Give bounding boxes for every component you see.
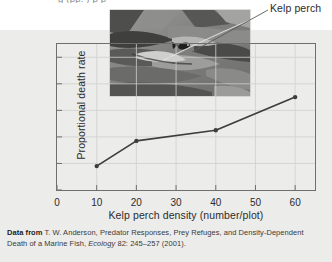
chart: Proportional death rate 00.20.40.60.81.0… [0, 0, 332, 262]
plot-frame: Proportional death rate 00.20.40.60.81.0… [56, 43, 316, 191]
x-tick-label: 20 [123, 197, 149, 208]
x-tick-label: 50 [242, 197, 268, 208]
plot-area [57, 44, 315, 190]
data-points [94, 95, 297, 168]
x-tick-label: 30 [163, 197, 189, 208]
data-point [214, 128, 218, 132]
gridlines [57, 44, 315, 190]
data-point [293, 95, 297, 99]
caption-line2a: Death of a Marine Fish, [7, 239, 88, 248]
caption-journal: Ecology [88, 239, 115, 248]
figure-page: g (pp. ) p p [0, 0, 332, 262]
caption-lead: Data from [7, 228, 42, 237]
caption-line2b: 82: 245–257 (2001). [115, 239, 186, 248]
data-point [134, 139, 138, 143]
x-tick-label: 10 [84, 197, 110, 208]
x-tick-label: 0 [44, 197, 70, 208]
data-line [97, 97, 295, 166]
data-point [94, 164, 98, 168]
x-axis-title: Kelp perch density (number/plot) [56, 209, 316, 221]
x-tick-label: 60 [282, 197, 308, 208]
caption-line1: T. W. Anderson, Predator Responses, Prey… [42, 228, 303, 237]
figure-caption: Data from T. W. Anderson, Predator Respo… [7, 228, 319, 249]
x-tick-label: 40 [203, 197, 229, 208]
y-axis-title: Proportional death rate [75, 35, 87, 175]
